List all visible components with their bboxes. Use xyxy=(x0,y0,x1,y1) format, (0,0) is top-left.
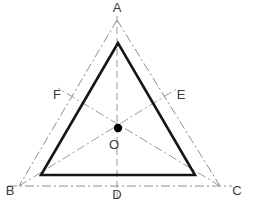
centroid-point-O xyxy=(114,124,122,132)
label-point-B: B xyxy=(6,183,15,198)
geometry-figure: A B C D E F O xyxy=(0,0,256,208)
diagram-background xyxy=(0,0,256,208)
label-point-A: A xyxy=(113,0,122,15)
label-point-E: E xyxy=(177,87,186,102)
label-point-O: O xyxy=(109,137,119,152)
label-point-F: F xyxy=(53,87,61,102)
triangle-diagram-canvas: A B C D E F O xyxy=(0,0,256,208)
label-point-C: C xyxy=(232,183,241,198)
label-point-D: D xyxy=(112,187,121,202)
